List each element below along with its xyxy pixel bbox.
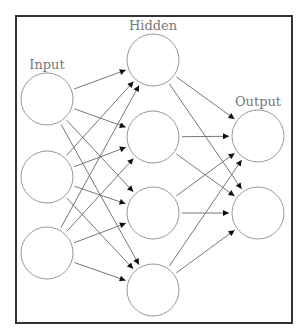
connection-arrow <box>176 77 234 119</box>
connection-arrow <box>67 158 134 231</box>
nodes <box>21 34 284 316</box>
hidden-node-2 <box>127 111 179 163</box>
connection-arrow <box>61 85 139 227</box>
connection-arrow <box>66 81 133 155</box>
connections <box>61 70 242 280</box>
connection-arrow <box>74 263 125 281</box>
input-node-1 <box>21 73 73 125</box>
hidden-node-4 <box>127 264 179 316</box>
connection-arrow <box>176 230 234 273</box>
output-node-1 <box>232 110 284 162</box>
connection-arrow <box>169 160 241 266</box>
input-node-2 <box>21 151 73 203</box>
connection-arrow <box>74 223 126 243</box>
layer-label-input: Input <box>29 57 65 72</box>
neural-network-diagram: Input Hidden Output <box>0 0 308 336</box>
input-node-3 <box>21 227 73 279</box>
output-node-2 <box>232 187 284 239</box>
hidden-node-3 <box>127 187 179 239</box>
layer-label-output: Output <box>235 94 282 109</box>
layer-label-hidden: Hidden <box>129 18 178 33</box>
connection-arrow <box>74 70 126 89</box>
hidden-node-1 <box>127 34 179 86</box>
